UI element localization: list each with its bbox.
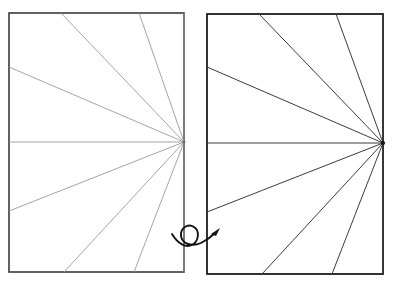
right-panel[interactable]: [207, 14, 385, 274]
right-panel-vertex: [381, 141, 385, 145]
left-panel-vertex: [183, 141, 186, 144]
left-panel-frame[interactable]: [9, 13, 184, 272]
diagram-canvas: Fan of rays in two rectangular panels wi…: [0, 0, 393, 285]
ray-fan-figure: [0, 0, 393, 285]
left-panel[interactable]: [9, 13, 186, 272]
right-panel-frame[interactable]: [207, 14, 383, 274]
